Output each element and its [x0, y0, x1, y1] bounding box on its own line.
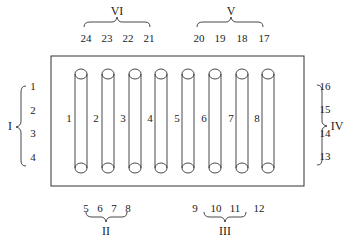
position-14: 14: [320, 128, 331, 139]
tube-label-2: 2: [93, 113, 99, 124]
position-12: 12: [254, 203, 265, 214]
position-17: 17: [259, 33, 270, 44]
position-1: 1: [30, 81, 36, 92]
position-4: 4: [30, 152, 36, 163]
brace-vi: [84, 17, 150, 27]
brace-i: [16, 86, 26, 166]
tube-label-7: 7: [228, 113, 234, 124]
tube-7: [236, 69, 248, 173]
position-18: 18: [237, 33, 248, 44]
tube-8: [262, 69, 274, 173]
position-2: 2: [30, 105, 36, 116]
position-13: 13: [320, 151, 331, 162]
position-16: 16: [320, 81, 331, 92]
position-10: 10: [211, 203, 222, 214]
tube-label-8: 8: [254, 113, 260, 124]
position-22: 22: [123, 33, 134, 44]
tube-6: [209, 69, 221, 173]
group-v-label: V: [227, 6, 236, 17]
tube-label-5: 5: [174, 113, 180, 124]
position-20: 20: [194, 33, 205, 44]
group-vi-label: VI: [111, 6, 124, 17]
brace-ii: [86, 212, 127, 222]
group-iv-label: IV: [331, 121, 344, 132]
position-5: 5: [83, 203, 89, 214]
tube-label-6: 6: [201, 113, 207, 124]
position-24: 24: [81, 33, 92, 44]
position-3: 3: [30, 128, 36, 139]
tube-label-4: 4: [147, 113, 153, 124]
position-7: 7: [111, 203, 117, 214]
position-23: 23: [102, 33, 113, 44]
position-11: 11: [230, 203, 241, 214]
tube-label-3: 3: [120, 113, 126, 124]
brace-v: [197, 17, 263, 27]
group-ii-label: II: [102, 226, 110, 237]
position-8: 8: [125, 203, 131, 214]
brace-iii: [204, 212, 246, 222]
tube-3: [129, 69, 141, 173]
position-21: 21: [144, 33, 155, 44]
position-19: 19: [215, 33, 226, 44]
tube-label-1: 1: [66, 113, 72, 124]
tube-4: [155, 69, 167, 173]
position-9: 9: [192, 203, 198, 214]
group-i-label: I: [8, 121, 12, 132]
tube-5: [182, 69, 194, 173]
diagram-canvas: [0, 0, 361, 249]
tube-1: [75, 69, 87, 173]
group-iii-label: III: [219, 226, 231, 237]
position-15: 15: [320, 104, 331, 115]
position-6: 6: [97, 203, 103, 214]
tube-2: [102, 69, 114, 173]
